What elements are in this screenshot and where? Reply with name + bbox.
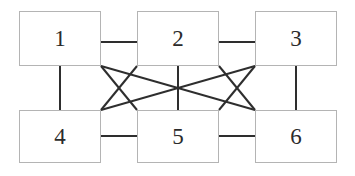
node-box-1[interactable]: 1 <box>19 11 101 66</box>
node-box-3[interactable]: 3 <box>255 11 337 66</box>
edge-2-to-6 <box>219 66 255 110</box>
edge-4-to-3 <box>101 66 255 110</box>
node-label-3: 3 <box>290 27 302 50</box>
diagram-canvas: 1 2 3 4 5 6 <box>0 0 355 176</box>
node-label-6: 6 <box>290 125 302 148</box>
node-label-1: 1 <box>54 27 66 50</box>
node-box-2[interactable]: 2 <box>137 11 219 66</box>
edge-5-to-3 <box>219 66 255 110</box>
edge-4-to-2 <box>101 66 137 110</box>
edge-1-to-6 <box>101 66 255 110</box>
node-label-4: 4 <box>54 125 66 148</box>
node-box-6[interactable]: 6 <box>255 110 337 163</box>
node-box-5[interactable]: 5 <box>137 110 219 163</box>
edge-1-to-5 <box>101 66 137 110</box>
node-box-4[interactable]: 4 <box>19 110 101 163</box>
node-label-2: 2 <box>172 27 184 50</box>
node-label-5: 5 <box>172 125 184 148</box>
